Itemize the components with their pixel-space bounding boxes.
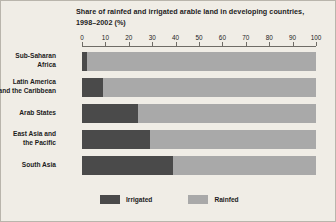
- category-label-line: the Pacific: [0, 139, 56, 148]
- bar-segment-irrigated: [82, 130, 150, 149]
- bar-segment-irrigated: [82, 156, 173, 175]
- x-axis-tick-mark: [105, 42, 106, 46]
- x-axis-tick-label: 80: [266, 34, 273, 41]
- category-label-line: Africa: [0, 61, 56, 70]
- x-axis-tick-label: 70: [242, 34, 249, 41]
- legend-item-rainfed: Rainfed: [188, 195, 238, 204]
- category-label-line: and the Caribbean: [0, 87, 56, 96]
- x-axis-tick-label: 90: [289, 34, 296, 41]
- bar-row: [82, 104, 316, 123]
- legend-swatch-irrigated: [100, 195, 120, 204]
- bar-row: [82, 52, 316, 71]
- x-axis-tick-label: 10: [102, 34, 109, 41]
- legend-item-irrigated: Irrigated: [100, 195, 152, 204]
- chart-title-line-1: Share of rainfed and irrigated arable la…: [76, 7, 304, 16]
- x-axis-tick-mark: [129, 42, 130, 46]
- chart-legend: IrrigatedRainfed: [100, 195, 239, 204]
- category-label: Latin Americaand the Caribbean: [0, 78, 56, 95]
- bar-segment-rainfed: [173, 156, 316, 175]
- x-axis-tick-label: 50: [195, 34, 202, 41]
- x-axis-tick-mark: [82, 42, 83, 46]
- chart-figure: Share of rainfed and irrigated arable la…: [0, 0, 336, 222]
- bar-segment-irrigated: [82, 78, 103, 97]
- bar-row: [82, 78, 316, 97]
- x-axis-tick-label: 0: [80, 34, 84, 41]
- bar-segment-irrigated: [82, 104, 138, 123]
- legend-label: Rainfed: [214, 196, 238, 203]
- x-axis-tick-mark: [246, 42, 247, 46]
- category-label-line: South Asia: [0, 161, 56, 170]
- x-axis-tick-label: 20: [125, 34, 132, 41]
- x-axis-tick-label: 100: [311, 34, 322, 41]
- category-label: South Asia: [0, 161, 56, 170]
- category-label-line: Arab States: [0, 109, 56, 118]
- x-axis-tick-mark: [176, 42, 177, 46]
- x-axis-line: [82, 46, 316, 47]
- x-axis-tick-label: 60: [219, 34, 226, 41]
- category-label: East Asia andthe Pacific: [0, 130, 56, 147]
- category-label-line: Sub-Saharan: [0, 52, 56, 61]
- category-label: Sub-SaharanAfrica: [0, 52, 56, 69]
- plot-area: Sub-SaharanAfricaLatin Americaand the Ca…: [82, 48, 316, 182]
- x-axis-tick-label: 30: [149, 34, 156, 41]
- bar-row: [82, 130, 316, 149]
- legend-label: Irrigated: [126, 196, 152, 203]
- category-label: Arab States: [0, 109, 56, 118]
- x-axis-tick-mark: [222, 42, 223, 46]
- x-axis-tick-mark: [269, 42, 270, 46]
- bar-row: [82, 156, 316, 175]
- category-label-line: Latin America: [0, 78, 56, 87]
- chart-title-line-2: 1998–2002 (%): [76, 18, 126, 27]
- x-axis-tick-label: 40: [172, 34, 179, 41]
- bar-segment-rainfed: [138, 104, 316, 123]
- x-axis-tick-mark: [152, 42, 153, 46]
- x-axis-tick-mark: [316, 42, 317, 46]
- bar-segment-rainfed: [87, 52, 316, 71]
- bar-segment-rainfed: [103, 78, 316, 97]
- category-label-line: East Asia and: [0, 130, 56, 139]
- x-axis-tick-mark: [199, 42, 200, 46]
- legend-swatch-rainfed: [188, 195, 208, 204]
- x-axis-tick-mark: [293, 42, 294, 46]
- bar-segment-rainfed: [150, 130, 316, 149]
- chart-title: Share of rainfed and irrigated arable la…: [76, 7, 328, 28]
